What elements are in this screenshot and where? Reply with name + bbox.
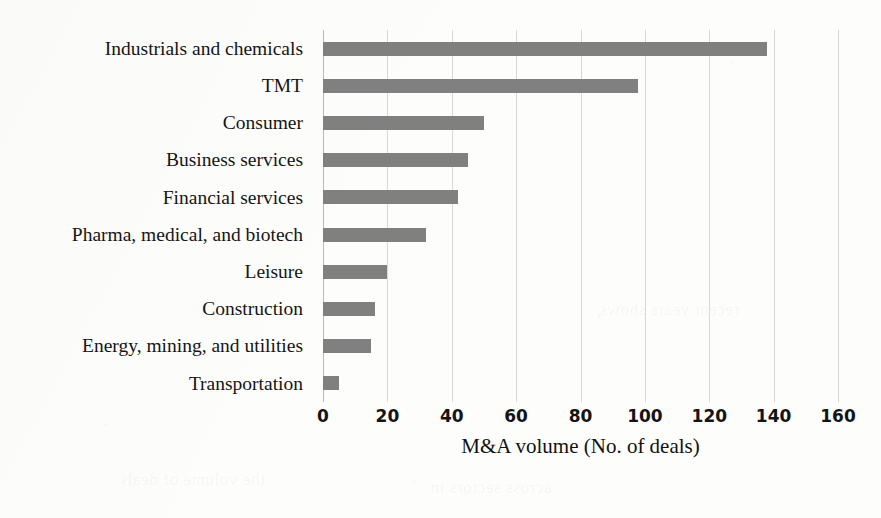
x-tick-label: 140 xyxy=(756,406,792,426)
x-tick-label: 60 xyxy=(504,406,528,426)
category-label: Transportation xyxy=(189,365,303,402)
x-tick-label: 0 xyxy=(317,406,329,426)
bar-row xyxy=(323,179,838,216)
category-label: Industrials and chemicals xyxy=(105,30,303,67)
category-label: Leisure xyxy=(245,253,303,290)
plot-area xyxy=(323,30,838,402)
bar xyxy=(323,376,339,390)
bar-row xyxy=(323,67,838,104)
x-axis-title: M&A volume (No. of deals) xyxy=(323,434,838,459)
gridline xyxy=(838,30,839,402)
bar-row xyxy=(323,104,838,141)
bar xyxy=(323,265,387,279)
y-axis-category-labels: Industrials and chemicals TMT Consumer B… xyxy=(0,30,313,402)
bar xyxy=(323,79,638,93)
bar-row xyxy=(323,290,838,327)
category-label: Business services xyxy=(166,142,303,179)
x-axis-tick-labels: 0 20 40 60 80 100 120 140 160 xyxy=(323,406,838,432)
x-tick-label: 80 xyxy=(569,406,593,426)
bar-row xyxy=(323,328,838,365)
category-label: Consumer xyxy=(223,104,303,141)
bar xyxy=(323,302,375,316)
bar xyxy=(323,116,484,130)
bar xyxy=(323,339,371,353)
category-label: Financial services xyxy=(163,179,303,216)
category-label: Energy, mining, and utilities xyxy=(82,328,303,365)
x-tick-label: 100 xyxy=(627,406,663,426)
bar-row xyxy=(323,142,838,179)
bar xyxy=(323,42,767,56)
x-tick-label: 120 xyxy=(692,406,728,426)
x-tick-label: 160 xyxy=(820,406,856,426)
x-tick-label: 40 xyxy=(440,406,464,426)
bar-chart: Industrials and chemicals TMT Consumer B… xyxy=(0,0,881,518)
bar-row xyxy=(323,30,838,67)
category-label: Construction xyxy=(202,290,303,327)
bar-row xyxy=(323,253,838,290)
x-tick-label: 20 xyxy=(376,406,400,426)
bar-row xyxy=(323,216,838,253)
bar xyxy=(323,228,426,242)
category-label: TMT xyxy=(262,67,303,104)
bar xyxy=(323,153,468,167)
category-label: Pharma, medical, and biotech xyxy=(72,216,303,253)
bar-row xyxy=(323,365,838,402)
bar xyxy=(323,190,458,204)
